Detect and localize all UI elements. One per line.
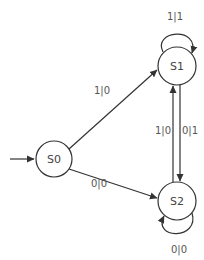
transition-s1-s2: 0|1	[180, 85, 198, 181]
state-s0[interactable]: S0	[36, 141, 72, 177]
transition-label: 0|1	[182, 125, 198, 137]
state-s0-label: S0	[47, 153, 61, 166]
state-diagram: S0 S1 S2 1|0 0|0 1|1 0|1 1|0 0|0	[0, 0, 204, 260]
state-s2[interactable]: S2	[158, 182, 196, 220]
transition-label: 1|0	[94, 85, 110, 97]
state-s1[interactable]: S1	[158, 47, 196, 85]
transition-label: 0|0	[91, 178, 107, 190]
transition-label: 1|1	[167, 11, 183, 23]
state-s1-label: S1	[170, 60, 184, 73]
transition-label: 1|0	[155, 125, 171, 137]
transition-s0-s2: 0|0	[69, 169, 157, 198]
transition-s2-s1: 1|0	[155, 86, 173, 182]
state-s2-label: S2	[170, 195, 184, 208]
transition-s0-s1: 1|0	[69, 70, 157, 149]
transition-label: 0|0	[171, 244, 187, 256]
